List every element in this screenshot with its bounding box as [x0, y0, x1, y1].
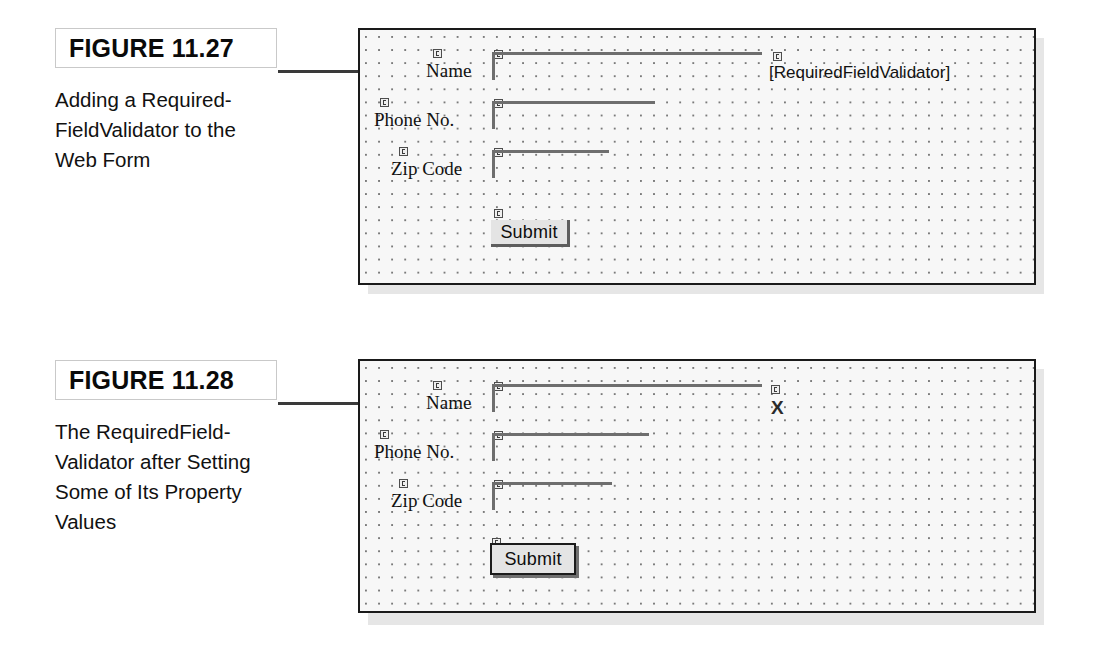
figure-caption-column: FIGURE 11.28 The RequiredField-Validator… [55, 360, 290, 537]
figure-caption-column: FIGURE 11.27 Adding a Required-FieldVali… [55, 28, 290, 175]
textbox-zip-code[interactable] [492, 150, 609, 178]
field-label-phone-no: Phone No. [374, 442, 454, 461]
server-control-glyph-icon [433, 49, 442, 58]
submit-button[interactable]: Submit [491, 220, 570, 247]
figure-label: FIGURE 11.28 [69, 366, 234, 395]
server-control-glyph-icon [380, 98, 389, 107]
figure-rule [278, 70, 360, 73]
server-control-glyph-icon [433, 381, 442, 390]
field-label-phone-no: Phone No. [374, 110, 454, 129]
textbox-phone-no[interactable] [492, 101, 655, 129]
textbox-phone-no[interactable] [492, 433, 649, 461]
field-label-name: Name [426, 61, 471, 80]
figure-caption: Adding a Required-FieldValidator to the … [55, 85, 279, 175]
textbox-name[interactable] [492, 384, 762, 412]
web-form-designer-surface[interactable]: Name X Phone No. Zip Code Submit [358, 359, 1036, 613]
server-control-glyph-icon [399, 479, 408, 488]
field-label-name: Name [426, 393, 471, 412]
web-form-designer-surface[interactable]: Name [RequiredFieldValidator] Phone No. … [358, 28, 1036, 285]
field-label-zip-code: Zip Code [391, 159, 462, 178]
field-label-zip-code: Zip Code [391, 491, 462, 510]
server-control-glyph-icon [399, 147, 408, 156]
figure-label: FIGURE 11.27 [69, 34, 234, 63]
textbox-name[interactable] [492, 52, 762, 80]
figure-caption: The RequiredField-Validator after Settin… [55, 417, 279, 537]
validator-error-text[interactable]: X [771, 398, 784, 417]
server-control-glyph-icon [771, 385, 780, 394]
textbox-zip-code[interactable] [492, 482, 612, 510]
server-control-glyph-icon [494, 209, 503, 218]
server-control-glyph-icon [773, 52, 782, 61]
server-control-glyph-icon [380, 430, 389, 439]
submit-button-label: Submit [500, 222, 557, 243]
figure-rule [278, 402, 360, 405]
validator-placeholder-text[interactable]: [RequiredFieldValidator] [769, 64, 950, 81]
submit-button[interactable]: Submit [490, 543, 576, 575]
submit-button-label: Submit [504, 549, 561, 570]
figure-label-box: FIGURE 11.27 [55, 28, 277, 68]
figure-label-box: FIGURE 11.28 [55, 360, 277, 400]
